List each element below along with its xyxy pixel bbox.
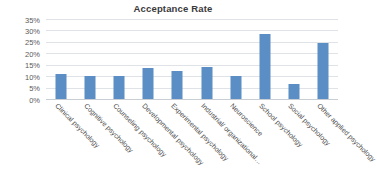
bar-slot bbox=[134, 20, 163, 100]
x-axis-tick-label: Cognitive psychology bbox=[83, 102, 135, 154]
y-axis-tick-label: 10% bbox=[25, 73, 40, 81]
bar-slot bbox=[75, 20, 104, 100]
plot-area bbox=[46, 20, 338, 100]
bar[interactable] bbox=[172, 71, 183, 100]
x-axis-tick-label: Counseling psychology bbox=[112, 102, 168, 158]
bar[interactable] bbox=[259, 34, 270, 100]
x-axis-tick-label: Developmental psychology bbox=[141, 102, 205, 166]
bar[interactable] bbox=[84, 76, 95, 100]
x-axis-tick-label: Experimental psychology bbox=[170, 102, 230, 162]
x-axis-tick-label: Other applied psychology bbox=[316, 102, 377, 163]
bar-slot bbox=[46, 20, 75, 100]
y-axis-tick-label: 0% bbox=[29, 96, 40, 104]
bar[interactable] bbox=[113, 76, 124, 100]
bar[interactable] bbox=[143, 68, 154, 100]
y-axis-tick-label: 20% bbox=[25, 51, 40, 59]
bar-slot bbox=[221, 20, 250, 100]
y-axis: 0%5%10%15%20%25%30%35% bbox=[0, 20, 44, 100]
bar[interactable] bbox=[289, 84, 300, 100]
y-axis-tick-label: 35% bbox=[25, 16, 40, 24]
bar-slot bbox=[309, 20, 338, 100]
chart-title: Acceptance Rate bbox=[0, 3, 346, 14]
bar-slot bbox=[163, 20, 192, 100]
y-axis-tick-label: 5% bbox=[29, 85, 40, 93]
bar-slot bbox=[104, 20, 133, 100]
bar[interactable] bbox=[230, 76, 241, 100]
y-axis-tick-label: 25% bbox=[25, 39, 40, 47]
x-axis: Clinical psychologyCognitive psychologyC… bbox=[46, 100, 338, 187]
bar-slot bbox=[280, 20, 309, 100]
x-axis-tick-label: Industrial/ organizational… bbox=[200, 102, 264, 166]
bars-group bbox=[46, 20, 338, 100]
bar-slot bbox=[192, 20, 221, 100]
bar[interactable] bbox=[201, 67, 212, 100]
bar[interactable] bbox=[55, 74, 66, 100]
bar-slot bbox=[250, 20, 279, 100]
bar[interactable] bbox=[318, 43, 329, 100]
y-axis-tick-label: 15% bbox=[25, 62, 40, 70]
y-axis-tick-label: 30% bbox=[25, 28, 40, 36]
